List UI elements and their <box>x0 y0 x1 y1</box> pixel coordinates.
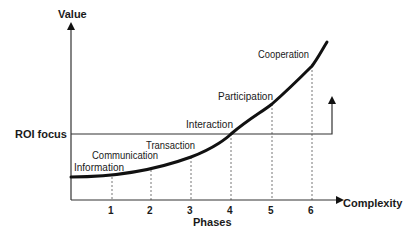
y-axis-label: Value <box>58 8 87 20</box>
phase-label-transaction: Transaction <box>146 139 195 151</box>
roi-focus-label: ROI focus <box>15 128 67 140</box>
tick-5: 5 <box>268 205 274 216</box>
phase-label-information: Information <box>74 161 124 173</box>
x-axis-sublabel: Phases <box>193 216 232 228</box>
x-axis-label: Complexity <box>343 197 403 209</box>
tick-2: 2 <box>147 205 153 216</box>
tick-4: 4 <box>227 205 233 216</box>
x-ticks: 1 2 3 4 5 6 <box>108 205 314 216</box>
tick-3: 3 <box>187 205 193 216</box>
phase-label-participation: Participation <box>218 90 273 102</box>
phase-label-cooperation: Cooperation <box>258 48 309 60</box>
phase-labels: Information Communication Transaction In… <box>74 48 309 173</box>
phases-diagram: Value Complexity Phases ROI focus 1 2 3 … <box>0 0 414 238</box>
tick-6: 6 <box>308 205 314 216</box>
phase-guides <box>112 66 312 200</box>
phase-label-interaction: Interaction <box>186 118 233 130</box>
tick-1: 1 <box>108 205 114 216</box>
